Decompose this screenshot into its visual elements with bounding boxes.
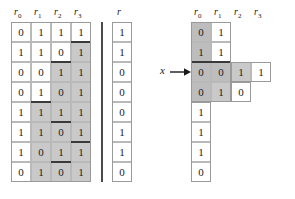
left-table-frame	[11, 22, 91, 182]
left-header-r2: r2	[54, 6, 61, 20]
right-header-r2: r2	[234, 6, 241, 20]
left-header-r0: r0	[14, 6, 21, 20]
right-frame-row3-ext	[231, 62, 271, 82]
right-frame-lower	[191, 102, 211, 182]
r-column-frame	[112, 22, 132, 182]
left-header-r1: r1	[34, 6, 41, 20]
arrow-right-icon	[170, 67, 192, 77]
section-divider	[101, 22, 103, 182]
right-header-r0: r0	[194, 6, 201, 20]
figure-root: r0 r1 r2 r3 r 0 1 1 1 1 1 0 1 0 0 1 1 0 …	[0, 0, 295, 199]
left-header-r3: r3	[74, 6, 81, 20]
right-frame-row4-ext	[231, 82, 251, 102]
pointer-label-x: x	[160, 64, 165, 76]
right-header-r1: r1	[214, 6, 221, 20]
r-column-header: r	[117, 6, 121, 17]
right-header-r3: r3	[254, 6, 261, 20]
right-frame-upper	[191, 22, 231, 102]
